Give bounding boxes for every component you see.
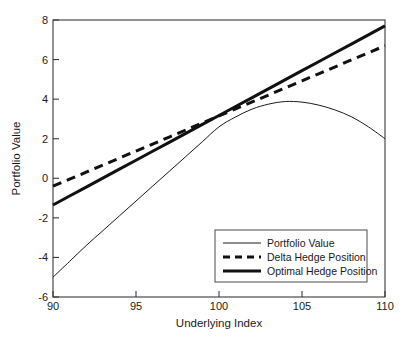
x-axis-tick-labels: 90 95 100 105 110 — [47, 300, 394, 312]
y-tick-label: 8 — [42, 14, 48, 26]
x-axis-ticks — [53, 291, 385, 297]
y-tick-label: -2 — [38, 212, 48, 224]
line-chart: -6 -4 -2 0 2 4 6 8 90 95 100 105 110 Und… — [0, 0, 408, 339]
x-tick-label: 105 — [293, 300, 311, 312]
y-tick-label: 0 — [42, 172, 48, 184]
legend-label-delta-hedge-position: Delta Hedge Position — [267, 251, 366, 263]
series-line-delta-hedge-position — [53, 46, 385, 186]
x-tick-label: 100 — [210, 300, 228, 312]
legend-label-optimal-hedge-position: Optimal Hedge Position — [267, 265, 377, 277]
y-tick-label: 2 — [42, 133, 48, 145]
chart-figure: -6 -4 -2 0 2 4 6 8 90 95 100 105 110 Und… — [0, 0, 408, 339]
x-tick-label: 90 — [47, 300, 59, 312]
x-tick-label: 110 — [376, 300, 394, 312]
y-axis-ticks — [53, 20, 59, 297]
y-tick-label: 4 — [42, 93, 48, 105]
y-tick-label: -4 — [38, 251, 48, 263]
x-axis-title: Underlying Index — [176, 317, 263, 329]
y-axis-title: Portfolio Value — [10, 122, 22, 196]
legend: Portfolio Value Delta Hedge Position Opt… — [215, 230, 377, 282]
legend-label-portfolio-value: Portfolio Value — [267, 237, 335, 249]
y-tick-label: 6 — [42, 54, 48, 66]
y-axis-tick-labels: -6 -4 -2 0 2 4 6 8 — [38, 14, 48, 303]
x-tick-label: 95 — [130, 300, 142, 312]
